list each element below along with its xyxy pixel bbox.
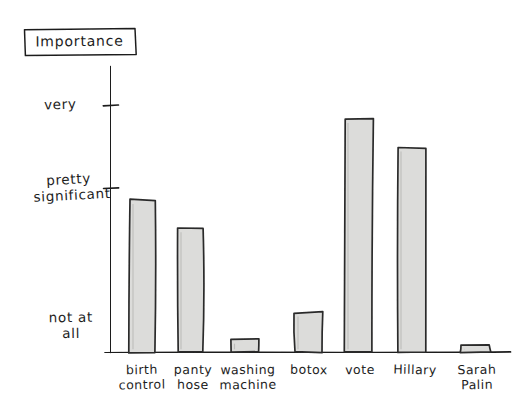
- bar-hillary: [397, 148, 426, 353]
- chart-title-box: Importance: [23, 28, 136, 55]
- x-axis-label-sarah-palin: Sarah Palin: [442, 362, 512, 391]
- bars-group: [129, 119, 491, 353]
- x-label-line2: machine: [206, 377, 290, 391]
- bar-shape: [231, 339, 259, 352]
- y-axis-label-not-at-all: not at all: [40, 310, 102, 341]
- chart-sketch-layer: [0, 0, 532, 420]
- bar-shape: [460, 345, 491, 353]
- chart-canvas: Importance very pretty significant not a…: [0, 0, 532, 420]
- x-label-line2: Palin: [442, 377, 512, 392]
- y-axis-label-notatall-line1: not at: [40, 310, 102, 325]
- y-axis-label-pretty-significant: pretty significant: [32, 170, 105, 204]
- bar-shape: [344, 119, 373, 352]
- bar-birth-control: [129, 199, 156, 353]
- bar-shape: [397, 148, 426, 353]
- bar-sarah-palin: [460, 345, 491, 353]
- bar-panty-hose: [178, 228, 204, 352]
- bar-vote: [344, 119, 373, 352]
- chart-title: Importance: [23, 28, 136, 56]
- y-axis-label-very: very: [44, 97, 77, 112]
- bar-botox: [294, 312, 323, 353]
- y-axis-label-notatall-line2: all: [40, 325, 102, 340]
- x-label-line1: Sarah: [442, 362, 512, 377]
- bar-washing-machine: [231, 339, 259, 352]
